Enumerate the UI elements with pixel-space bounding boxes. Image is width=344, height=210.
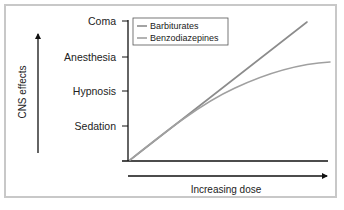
y-axis-title: CNS effects bbox=[17, 65, 28, 118]
tick-label-hypnosis: Hypnosis bbox=[73, 85, 116, 97]
tick-label-anesthesia: Anesthesia bbox=[64, 51, 116, 63]
benzodiazepines-curve bbox=[130, 62, 330, 160]
tick-label-coma: Coma bbox=[88, 15, 116, 27]
legend-label-benzodiazepines: Benzodiazepines bbox=[150, 33, 219, 43]
legend-item-benzodiazepines: Benzodiazepines bbox=[137, 33, 219, 43]
tick-label-sedation: Sedation bbox=[75, 120, 117, 132]
y-axis-ticks bbox=[122, 21, 128, 126]
y-axis-tick-labels: Coma Anesthesia Hypnosis Sedation bbox=[64, 15, 116, 132]
chart-canvas: CNS effects Coma Anesthesia Hypnosis Sed… bbox=[0, 0, 344, 210]
x-axis-title: Increasing dose bbox=[191, 184, 262, 195]
legend-label-barbiturates: Barbiturates bbox=[150, 21, 199, 31]
legend: Barbiturates Benzodiazepines bbox=[133, 18, 228, 45]
series-benzodiazepines bbox=[130, 62, 330, 160]
